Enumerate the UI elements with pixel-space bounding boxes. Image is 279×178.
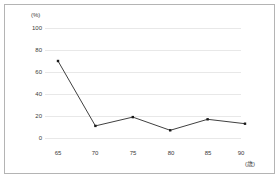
data-point-75	[132, 116, 134, 118]
data-series-svg	[0, 0, 279, 178]
data-point-80	[169, 129, 171, 131]
data-point-70	[94, 125, 96, 127]
chart-screenshot: (%) 100 80 60 40 20 0 65 70 75 80 85 90 …	[0, 0, 279, 178]
data-point-65	[57, 60, 59, 62]
data-line-series-1	[58, 61, 245, 130]
line-chart: (%) 100 80 60 40 20 0 65 70 75 80 85 90 …	[0, 0, 279, 178]
data-point-85	[206, 118, 208, 120]
data-point-90	[244, 123, 246, 125]
